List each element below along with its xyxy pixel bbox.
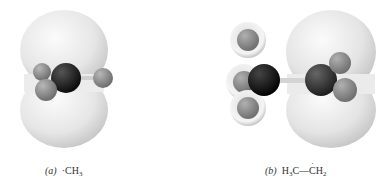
hydrogen-atom xyxy=(333,78,357,102)
hydrogen-atom xyxy=(33,63,51,81)
caption-b: (b) H3C—·CH2 xyxy=(265,165,326,178)
hydrogen-atom xyxy=(93,68,113,88)
carbon-atom xyxy=(248,64,280,96)
methyl-radical-model xyxy=(0,0,190,190)
hydrogen-atom xyxy=(237,97,259,119)
panel-a-methyl-radical: (a) ·CH3 xyxy=(0,0,190,190)
hydrogen-atom xyxy=(35,79,57,101)
formula-ethyl: H3C—·CH2 xyxy=(282,165,327,176)
formula-methyl: ·CH3 xyxy=(62,165,83,176)
ethyl-radical-model xyxy=(190,0,379,190)
panel-b-ethyl-radical: (b) H3C—·CH2 xyxy=(190,0,379,190)
hydrogen-atom xyxy=(329,52,351,74)
caption-a: (a) ·CH3 xyxy=(45,165,82,178)
hydrogen-atom xyxy=(237,29,259,51)
